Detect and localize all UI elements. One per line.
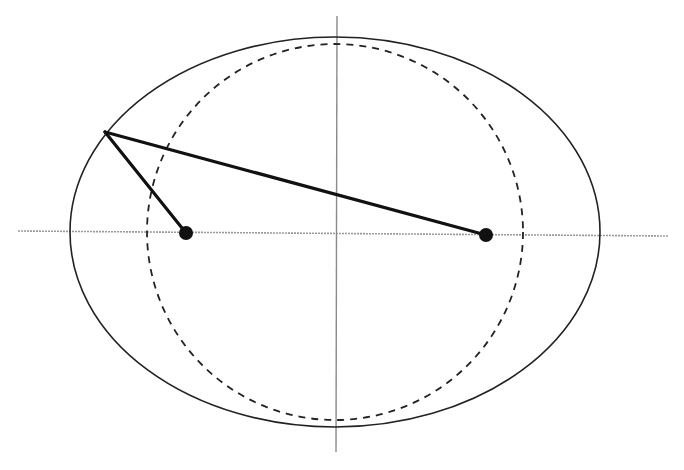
focal-radius-to-focus-1: [105, 132, 186, 233]
dashed-auxiliary-circle: [147, 44, 523, 420]
focus-point-2: [479, 228, 493, 242]
focus-point-1: [179, 226, 193, 240]
diagram-canvas: [0, 0, 684, 470]
ellipse-outline: [70, 37, 600, 427]
vertical-axis: [336, 16, 337, 452]
focal-radius-to-focus-2: [105, 132, 486, 235]
ellipse-diagram: [0, 0, 684, 470]
horizontal-axis: [18, 231, 668, 236]
